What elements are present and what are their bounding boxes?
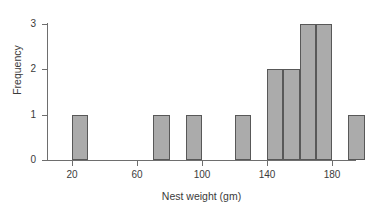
y-tick-mark	[42, 24, 48, 25]
histogram-bar	[267, 69, 283, 160]
x-tick-label: 20	[52, 169, 92, 180]
x-tick-label: 140	[247, 169, 287, 180]
y-axis-title: Frequency	[11, 20, 23, 120]
y-tick-mark	[42, 69, 48, 70]
x-tick-label: 180	[312, 169, 352, 180]
histogram-bar	[283, 69, 299, 160]
x-axis-title: Nest weight (gm)	[47, 190, 356, 202]
y-tick-mark	[42, 160, 48, 161]
histogram-bar	[316, 24, 332, 160]
histogram-figure: 0123 2060100140180 Frequency Nest weight…	[0, 0, 372, 216]
y-tick-label: 0	[10, 155, 36, 165]
histogram-bar	[348, 115, 364, 160]
x-tick-label: 60	[117, 169, 157, 180]
histogram-bar	[300, 24, 316, 160]
x-tick-mark	[332, 161, 333, 166]
x-tick-label: 100	[182, 169, 222, 180]
x-tick-mark	[137, 161, 138, 166]
y-tick-mark	[42, 115, 48, 116]
x-tick-mark	[202, 161, 203, 166]
histogram-bar	[235, 115, 251, 160]
histogram-bar	[72, 115, 88, 160]
x-tick-mark	[72, 161, 73, 166]
histogram-bar	[186, 115, 202, 160]
y-axis-line	[47, 23, 48, 161]
histogram-bar	[153, 115, 169, 160]
x-tick-mark	[267, 161, 268, 166]
plot-area: 0123 2060100140180 Frequency Nest weight…	[0, 0, 372, 216]
